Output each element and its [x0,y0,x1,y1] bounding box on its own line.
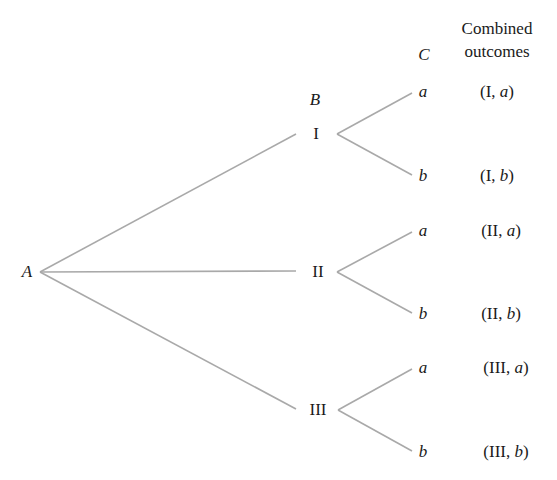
edge-a-ii [40,271,296,272]
combined-outcomes-header: Combined outcomes [462,17,533,63]
leaf-iii-b: b [419,442,428,462]
edge-i-a [337,93,412,134]
root-node-a: A [22,262,32,282]
node-b-iii: III [310,400,327,420]
edge-ii-b [337,272,412,313]
outcome-i-a: (I, a) [480,82,514,102]
outcome-ii-a: (II, a) [481,221,521,241]
edge-iii-b [338,410,412,451]
leaf-i-b: b [419,166,428,186]
tree-edges [0,0,557,480]
outcome-roman: I [486,82,492,101]
outcome-letter: b [500,166,509,185]
edge-ii-a [337,232,412,272]
outcome-roman: II [487,304,498,323]
header-line-2: outcomes [462,40,533,63]
outcome-i-b: (I, b) [480,166,514,186]
node-b-i: I [313,124,319,144]
edge-a-i [40,134,296,272]
outcome-letter: a [514,358,523,377]
outcome-iii-a: (III, a) [483,358,528,378]
outcome-iii-b: (III, b) [483,442,528,462]
outcome-letter: a [507,221,516,240]
outcome-roman: III [489,358,506,377]
leaf-ii-a: a [419,221,428,241]
outcome-roman: I [486,166,492,185]
outcome-letter: b [507,304,516,323]
edge-iii-a [338,369,412,410]
outcome-roman: II [487,221,498,240]
header-line-1: Combined [462,17,533,40]
outcome-letter: a [500,82,509,101]
stage-b-label: B [310,90,320,110]
edge-i-b [337,134,412,175]
edge-a-iii [40,272,296,409]
outcome-roman: III [489,442,506,461]
leaf-i-a: a [419,82,428,102]
outcome-letter: b [514,442,523,461]
node-b-ii: II [312,262,323,282]
leaf-ii-b: b [419,304,428,324]
outcome-ii-b: (II, b) [481,304,521,324]
leaf-iii-a: a [419,358,428,378]
stage-c-label: C [418,45,429,65]
